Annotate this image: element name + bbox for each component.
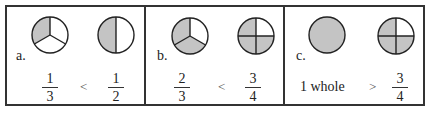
panel-divider xyxy=(283,5,285,106)
pie-three-quarters-icon xyxy=(237,17,275,55)
fraction-right: 3 4 xyxy=(243,71,263,104)
pie-whole-icon xyxy=(308,16,346,54)
numerator: 3 xyxy=(390,71,410,86)
numerator: 1 xyxy=(106,71,126,86)
fraction-bar xyxy=(108,87,124,88)
panel-label: c. xyxy=(296,49,306,63)
numerator: 3 xyxy=(243,71,263,86)
fraction-right: 1 2 xyxy=(106,71,126,104)
pie-one-third-icon xyxy=(31,16,69,54)
denominator: 3 xyxy=(172,89,192,104)
whole-label: 1 whole xyxy=(300,80,345,94)
fraction-bar xyxy=(42,87,58,88)
fraction-left: 1 3 xyxy=(40,71,60,104)
denominator: 4 xyxy=(243,89,263,104)
comparison-operator: > xyxy=(369,80,376,94)
fraction-right: 3 4 xyxy=(390,71,410,104)
comparison-operator: < xyxy=(218,80,225,94)
fraction-bar xyxy=(392,87,408,88)
denominator: 2 xyxy=(106,89,126,104)
pie-three-quarters-icon xyxy=(377,17,415,55)
pie-two-thirds-icon xyxy=(171,17,209,55)
numerator: 2 xyxy=(172,71,192,86)
pie-one-half-icon xyxy=(97,16,135,54)
panel-divider xyxy=(144,5,146,106)
fraction-bar xyxy=(245,87,261,88)
fraction-bar xyxy=(174,87,190,88)
numerator: 1 xyxy=(40,71,60,86)
comparison-operator: < xyxy=(80,80,87,94)
denominator: 4 xyxy=(390,89,410,104)
panel-label: b. xyxy=(157,49,168,63)
fraction-left: 2 3 xyxy=(172,71,192,104)
denominator: 3 xyxy=(40,89,60,104)
panel-label: a. xyxy=(16,49,26,63)
